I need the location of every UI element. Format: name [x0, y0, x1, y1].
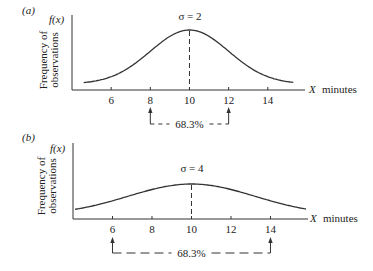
panel-label: (b) [22, 131, 35, 144]
y-axis-label-line-2: observations [46, 158, 58, 214]
arrowhead-icon [268, 237, 272, 243]
density-curve [84, 30, 294, 83]
panel-a: (a) f(x) Frequency of observations X min… [22, 4, 357, 130]
panel-b: (b) f(x) Frequency of observations X min… [22, 131, 358, 259]
x-tick-label: 12 [225, 223, 236, 235]
x-tick-label: 8 [149, 223, 155, 235]
y-axis-short-label: f(x) [50, 142, 66, 155]
x-tick-label: 10 [186, 223, 198, 235]
x-tick-label: 10 [184, 94, 196, 106]
x-tick-label: 14 [262, 94, 274, 106]
x-tick-labels: 68101214 [110, 223, 277, 235]
arrowhead-icon [110, 237, 114, 243]
x-axis-variable: X [308, 83, 317, 95]
arrowhead-icon [226, 107, 230, 113]
x-axis-variable: X [309, 212, 318, 224]
x-tick-label: 6 [110, 223, 116, 235]
x-tick-label: 12 [223, 94, 234, 106]
bracket-label: 68.3% [177, 247, 205, 259]
x-axis-unit: minutes [323, 212, 358, 224]
x-axis-unit: minutes [322, 83, 357, 95]
panel-label: (a) [22, 4, 35, 17]
y-axis-label-line-2: observations [48, 32, 60, 88]
density-curve [75, 184, 306, 209]
sigma-label: σ = 4 [180, 162, 204, 174]
x-tick-label: 8 [148, 94, 154, 106]
y-axis-short-label: f(x) [49, 13, 65, 26]
sigma-label: σ = 2 [178, 10, 201, 22]
bracket-label: 68.3% [175, 118, 203, 130]
x-tick-label: 6 [108, 94, 114, 106]
arrowhead-icon [148, 107, 152, 113]
x-tick-label: 14 [265, 223, 277, 235]
normal-distribution-figure: (a) f(x) Frequency of observations X min… [0, 0, 373, 271]
x-tick-labels: 68101214 [108, 94, 273, 106]
